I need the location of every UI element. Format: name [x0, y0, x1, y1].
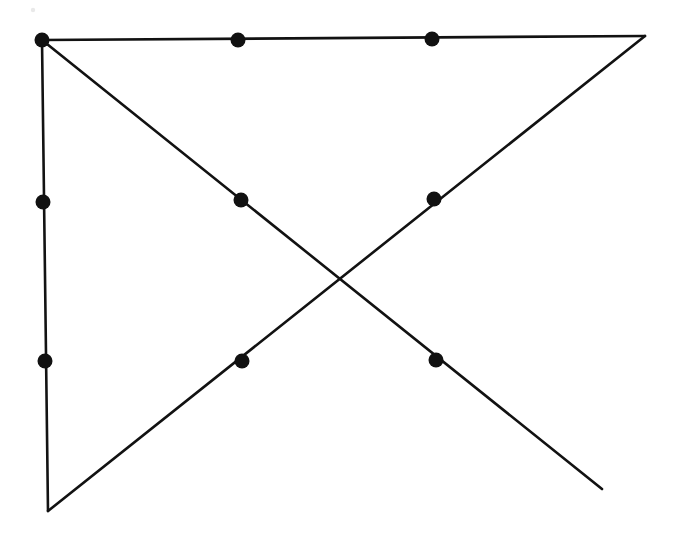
- line-figure-svg: Geometric line figure with crossing diag…: [0, 0, 676, 538]
- dot-descending-upper: [234, 193, 249, 208]
- dot-left-edge-1: [36, 195, 51, 210]
- line-left-edge: [42, 40, 48, 511]
- scan-speck: [31, 8, 35, 12]
- line-top-edge: [42, 36, 645, 40]
- dot-top-left-corner: [35, 33, 50, 48]
- dot-left-edge-2: [38, 354, 53, 369]
- line-ascending-diagonal: [48, 36, 645, 511]
- figure-canvas: Geometric line figure with crossing diag…: [0, 0, 676, 538]
- dot-ascending-upper: [427, 192, 442, 207]
- line-segment-group: [42, 36, 645, 511]
- dot-top-edge-2: [425, 32, 440, 47]
- scan-speck-group: [31, 8, 35, 12]
- dot-top-edge-1: [231, 33, 246, 48]
- line-descending-diagonal: [42, 40, 602, 489]
- dot-descending-lower: [429, 353, 444, 368]
- dot-ascending-lower: [235, 354, 250, 369]
